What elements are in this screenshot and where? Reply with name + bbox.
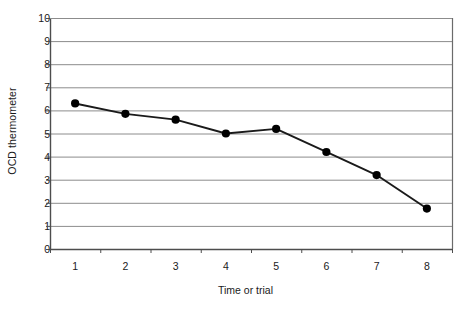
line-chart: OCD thermometer 012345678910 12345678 Ti… (0, 0, 471, 310)
x-axis-tick-label: 4 (216, 261, 236, 272)
x-axis-tick-label: 5 (266, 261, 286, 272)
x-axis-tick-label: 7 (367, 261, 387, 272)
x-axis-tick-label: 2 (115, 261, 135, 272)
x-axis-tick-label: 6 (316, 261, 336, 272)
x-axis-tick-label: 8 (417, 261, 437, 272)
x-axis-tick-labels: 12345678 (0, 0, 471, 310)
x-axis-tick-label: 1 (65, 261, 85, 272)
x-axis-tick-label: 3 (166, 261, 186, 272)
x-axis-title-text: Time or trial (198, 284, 273, 296)
x-axis-title: Time or trial (0, 284, 471, 296)
